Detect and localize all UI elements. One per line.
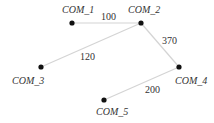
edge-weight-com2-com3: 120 [80, 51, 95, 62]
edge-com4-com5 [104, 67, 179, 100]
edge-weight-com1-com2: 100 [101, 11, 116, 22]
edge-weight-com2-com4: 370 [162, 35, 177, 46]
node-com1[interactable] [69, 20, 74, 25]
node-label-com1: COM_1 [62, 4, 94, 15]
node-com5[interactable] [101, 97, 106, 102]
edge-weight-com4-com5: 200 [145, 84, 160, 95]
node-com4[interactable] [176, 64, 181, 69]
node-com2[interactable] [138, 20, 143, 25]
node-label-com2: COM_2 [128, 4, 160, 15]
node-label-com4: COM_4 [175, 75, 207, 86]
node-label-com5: COM_5 [96, 106, 128, 117]
graph-canvas: 100 120 370 200 COM_1 COM_2 COM_3 COM_4 … [0, 0, 214, 123]
node-label-com3: COM_3 [12, 75, 44, 86]
node-com3[interactable] [38, 64, 43, 69]
nodes [38, 20, 181, 102]
